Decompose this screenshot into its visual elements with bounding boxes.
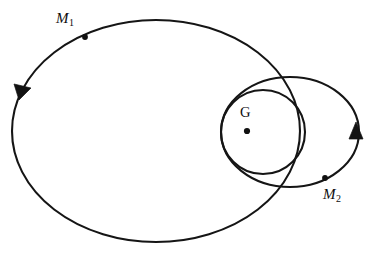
- orbit-path-m1: [12, 20, 300, 242]
- body-marker-m2: [322, 175, 328, 181]
- orbit-diagram-canvas: [0, 0, 378, 257]
- label-m2-subscript: 2: [336, 193, 342, 204]
- label-m1: M1: [56, 11, 74, 28]
- barycenter-marker-g: [244, 128, 250, 134]
- direction-arrow-m2-icon: [349, 122, 363, 139]
- label-m2-symbol: M: [323, 186, 336, 202]
- label-m1-subscript: 1: [69, 17, 75, 28]
- body-marker-m1: [82, 34, 88, 40]
- label-m2: M2: [323, 187, 341, 204]
- orbit-diagram: M1 M2 G: [0, 0, 378, 257]
- barycenter-circle: [221, 90, 305, 174]
- direction-arrow-m1-icon: [14, 84, 31, 100]
- label-barycenter-g: G: [240, 105, 250, 120]
- label-m1-symbol: M: [56, 10, 69, 26]
